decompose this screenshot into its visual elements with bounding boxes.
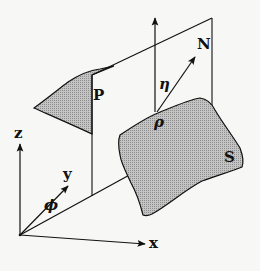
diagram-svg — [0, 0, 260, 271]
normal-n-label: N — [197, 37, 211, 52]
diagram-canvas: z y x ϕ P η N ρ S — [0, 0, 260, 271]
x-axis-label: x — [149, 236, 158, 251]
origin-point — [19, 234, 22, 237]
surface-s-label: S — [224, 150, 235, 165]
eta-angle-label: η — [159, 77, 170, 92]
y-axis-label: y — [63, 167, 72, 182]
point-rho-label: ρ — [154, 115, 164, 130]
x-axis — [20, 235, 145, 244]
z-axis-label: z — [14, 126, 23, 141]
plane-p-label: P — [93, 88, 104, 103]
phi-angle-label: ϕ — [44, 198, 58, 213]
